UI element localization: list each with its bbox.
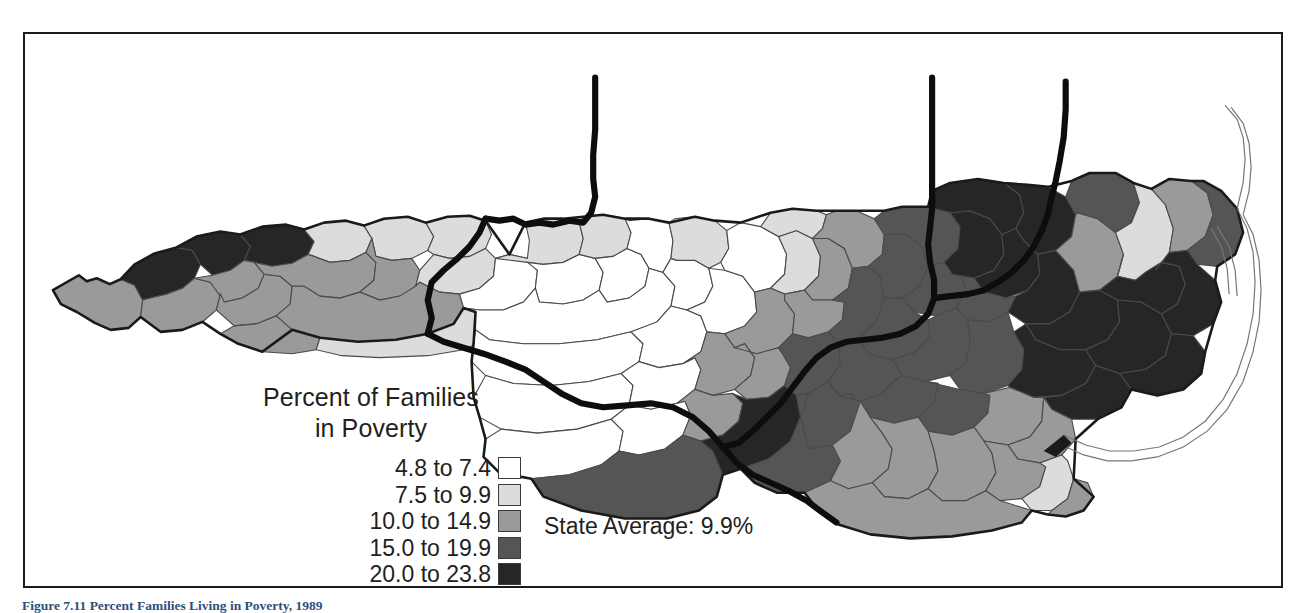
legend-title-line2: in Poverty — [221, 413, 521, 444]
legend-item-label: 20.0 to 23.8 — [370, 561, 492, 587]
legend-item: 4.8 to 7.4 — [221, 455, 521, 482]
legend-item-label: 4.8 to 7.4 — [395, 455, 491, 481]
legend-item-label: 7.5 to 9.9 — [395, 482, 491, 508]
legend-swatch-class-5 — [498, 563, 521, 585]
legend-item: 10.0 to 14.9 — [221, 508, 521, 535]
figure-caption: Figure 7.11 Percent Families Living in P… — [22, 598, 323, 613]
legend-title-line1: Percent of Families — [221, 382, 521, 413]
legend-swatch-class-3 — [498, 510, 521, 532]
legend-item-label: 15.0 to 19.9 — [370, 535, 492, 561]
legend-class-list: 4.8 to 7.4 7.5 to 9.9 10.0 to 14.9 15.0 … — [221, 455, 521, 588]
north-carolina-choropleth-map: .cty{stroke:#4a4a4a;stroke-width:1.1;} .… — [25, 34, 1281, 586]
legend-item: 7.5 to 9.9 — [221, 482, 521, 509]
legend-item: 20.0 to 23.8 — [221, 561, 521, 588]
map-plate: .cty{stroke:#4a4a4a;stroke-width:1.1;} .… — [23, 32, 1283, 588]
state-average-annotation: State Average: 9.9% — [544, 512, 753, 540]
legend-swatch-class-2 — [498, 484, 521, 506]
legend-swatch-class-1 — [498, 457, 521, 479]
map-legend: Percent of Families in Poverty 4.8 to 7.… — [221, 382, 521, 588]
figure-poverty-map: .cty{stroke:#4a4a4a;stroke-width:1.1;} .… — [0, 0, 1302, 613]
legend-item-label: 10.0 to 14.9 — [370, 508, 492, 534]
piedmont-inner-boundary — [486, 78, 596, 225]
legend-item: 15.0 to 19.9 — [221, 535, 521, 562]
legend-swatch-class-4 — [498, 537, 521, 559]
